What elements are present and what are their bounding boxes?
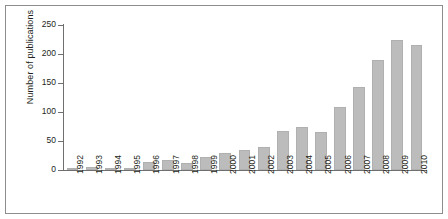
y-tick-label: 150 [16, 78, 56, 87]
x-tick-label: 2001 [248, 155, 257, 174]
x-tick-label: 1993 [95, 155, 104, 174]
x-tick-label: 1996 [152, 155, 161, 174]
bar [391, 40, 403, 170]
x-tick-label: 2004 [305, 155, 314, 174]
x-tick-label: 1994 [114, 155, 123, 174]
y-tick-label: 50 [16, 136, 56, 145]
x-tick-label: 2002 [267, 155, 276, 174]
x-tick-label: 2009 [401, 155, 410, 174]
bar [411, 45, 423, 170]
x-tick-label: 1999 [210, 155, 219, 174]
figure-bar-chart-publications-per-year: Number of publications 050100150200250 1… [0, 0, 448, 219]
y-tick-label: 250 [16, 20, 56, 29]
x-tick-label: 1992 [76, 155, 85, 174]
x-tick-label: 2010 [420, 155, 429, 174]
y-tick-label: 200 [16, 49, 56, 58]
bar [372, 60, 384, 170]
x-tick-label: 2003 [286, 155, 295, 174]
y-tick-mark [58, 170, 63, 171]
x-tick-label: 1995 [133, 155, 142, 174]
x-tick-label: 2008 [382, 155, 391, 174]
x-tick-label: 1998 [191, 155, 200, 174]
x-tick-label: 2005 [324, 155, 333, 174]
x-tick-label: 2007 [363, 155, 372, 174]
y-tick-label: 0 [16, 165, 56, 174]
x-tick-label: 1997 [172, 155, 181, 174]
plot-area [63, 25, 426, 170]
y-tick-label: 100 [16, 107, 56, 116]
x-tick-label: 2006 [344, 155, 353, 174]
x-tick-label: 2000 [229, 155, 238, 174]
